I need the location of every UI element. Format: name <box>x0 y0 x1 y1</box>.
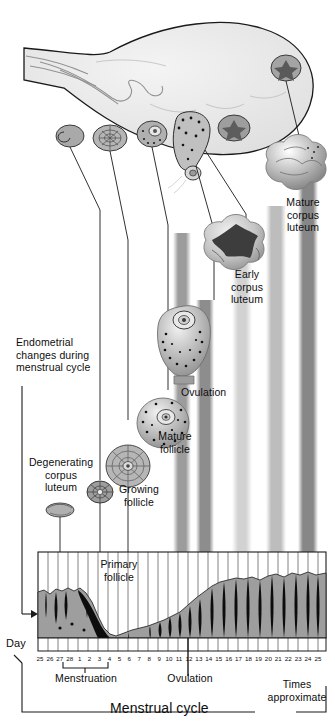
ovary-illustration <box>24 23 313 194</box>
day-tick-25: 25 <box>311 653 325 666</box>
ovulation-axis-label: Ovulation <box>160 672 220 685</box>
mature-follicle-label: Mature follicle <box>146 430 204 455</box>
early-corpus-luteum-label: Early corpus luteum <box>218 268 276 306</box>
cycle-phase-bands <box>173 180 318 555</box>
degenerating-corpus-luteum-label: Degenerating corpus luteum <box>13 456 109 494</box>
day-axis-label: Day <box>6 637 26 650</box>
endometrial-bracket <box>22 386 38 618</box>
growing-follicle-label: Growing follicle <box>108 483 170 508</box>
growing-follicle-illustration <box>106 445 150 487</box>
mature-corpus-luteum-illustration <box>266 135 326 190</box>
figure-root: Endometrial changes during menstrual cyc… <box>0 0 335 723</box>
times-approximate-label: Times approximate <box>262 678 332 703</box>
primary-follicle-label: Primary follicle <box>88 558 150 583</box>
mature-corpus-luteum-label: Mature corpus luteum <box>272 196 334 234</box>
degenerating-corpus-luteum-illustration <box>46 503 74 552</box>
menstruation-label: Menstruation <box>40 672 132 685</box>
endometrial-changes-label: Endometrial changes during menstrual cyc… <box>16 336 90 374</box>
ovulation-illustration <box>158 306 211 384</box>
early-corpus-luteum-illustration <box>204 215 264 270</box>
menstrual-cycle-title: Menstrual cycle <box>110 702 209 715</box>
ovulation-structure-label: Ovulation <box>181 386 226 399</box>
